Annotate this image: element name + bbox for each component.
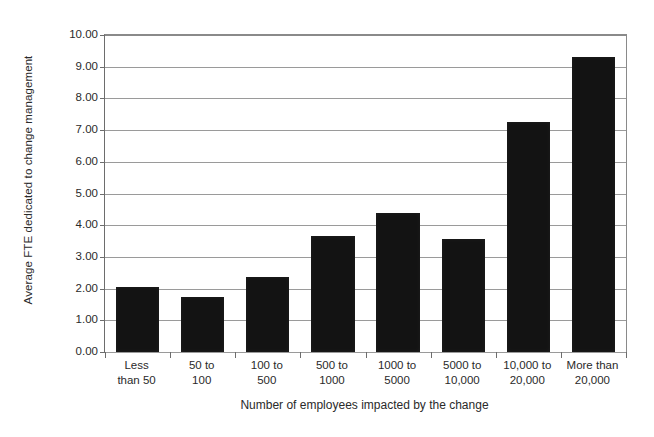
bar	[181, 297, 224, 352]
y-tick-label: 6.00	[76, 155, 98, 167]
y-tick-label: 1.00	[76, 313, 98, 325]
y-axis-tick-labels: 0.001.002.003.004.005.006.007.008.009.00…	[44, 34, 98, 351]
x-tick-label: 10,000 to 20,000	[495, 358, 560, 388]
y-tick-label: 0.00	[76, 345, 98, 357]
y-tick-label: 7.00	[76, 123, 98, 135]
y-tick-label: 2.00	[76, 282, 98, 294]
bars-group	[105, 35, 626, 352]
bar	[246, 277, 289, 352]
bar	[311, 236, 354, 352]
bar	[116, 287, 159, 352]
x-tick-label: 5000 to 10,000	[430, 358, 495, 388]
bar-chart-figure: Average FTE dedicated to change manageme…	[0, 0, 654, 437]
x-tick-label: 500 to 1000	[299, 358, 364, 388]
y-tick-label: 5.00	[76, 187, 98, 199]
x-axis-tick-labels: Less than 5050 to 100100 to 500500 to 10…	[104, 358, 625, 392]
y-axis-title-text: Average FTE dedicated to change manageme…	[22, 56, 34, 305]
x-tick-label: 1000 to 5000	[365, 358, 430, 388]
x-tick-label: 50 to 100	[169, 358, 234, 388]
bar	[507, 122, 550, 352]
x-axis-title: Number of employees impacted by the chan…	[104, 398, 625, 412]
y-tick-label: 9.00	[76, 60, 98, 72]
y-tick-label: 8.00	[76, 91, 98, 103]
y-tick-label: 10.00	[69, 28, 98, 40]
x-tick-label: Less than 50	[104, 358, 169, 388]
x-tick-mark	[626, 352, 627, 358]
bar	[376, 213, 419, 352]
x-tick-label: More than 20,000	[560, 358, 625, 388]
plot-area	[104, 34, 627, 353]
bar	[442, 239, 485, 352]
y-tick-label: 3.00	[76, 250, 98, 262]
y-tick-label: 4.00	[76, 218, 98, 230]
bar	[572, 57, 615, 352]
x-tick-label: 100 to 500	[234, 358, 299, 388]
